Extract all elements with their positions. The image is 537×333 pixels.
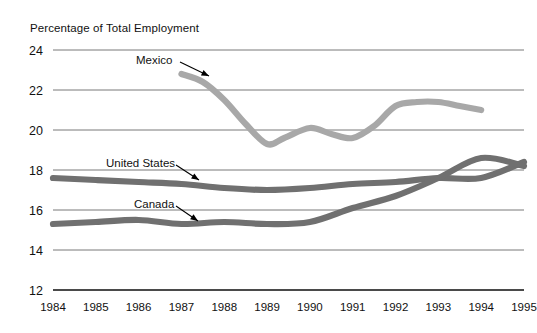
y-tick-label-16: 16 <box>29 204 43 218</box>
y-tick-label-12: 12 <box>29 284 43 298</box>
arrow-head-icon-canada <box>190 214 198 221</box>
arrow-head-icon-united-states <box>191 173 199 180</box>
arrow-head-icon-mexico <box>201 70 209 76</box>
y-tick-label-22: 22 <box>29 84 43 98</box>
x-tick-label-1991: 1991 <box>340 301 366 313</box>
series-label-mexico: Mexico <box>136 54 172 66</box>
x-tick-label-1989: 1989 <box>254 301 280 313</box>
data-series-group <box>53 74 524 224</box>
series-line-mexico <box>181 74 481 145</box>
x-tick-label-1987: 1987 <box>169 301 195 313</box>
y-tick-label-18: 18 <box>29 164 43 178</box>
x-tick-label-1995: 1995 <box>511 301 537 313</box>
y-tick-label-24: 24 <box>29 44 43 58</box>
x-tick-label-1990: 1990 <box>297 301 323 313</box>
x-tick-label-1986: 1986 <box>126 301 152 313</box>
chart-plot-area: 12141618202224 1984198519861987198819891… <box>0 0 537 333</box>
y-tick-label-14: 14 <box>29 244 43 258</box>
x-tick-label-1985: 1985 <box>83 301 109 313</box>
chart-container: Percentage of Total Employment 121416182… <box>0 0 537 333</box>
x-tick-label-1992: 1992 <box>383 301 409 313</box>
series-label-canada: Canada <box>134 198 175 210</box>
y-axis-tick-labels: 12141618202224 <box>29 44 43 298</box>
x-axis-tick-labels: 1984198519861987198819891990199119921993… <box>40 301 537 313</box>
y-tick-label-20: 20 <box>29 124 43 138</box>
x-tick-label-1993: 1993 <box>426 301 452 313</box>
x-tick-label-1988: 1988 <box>211 301 237 313</box>
x-tick-label-1994: 1994 <box>468 301 494 313</box>
series-label-united-states: United States <box>106 157 175 169</box>
x-tick-label-1984: 1984 <box>40 301 66 313</box>
